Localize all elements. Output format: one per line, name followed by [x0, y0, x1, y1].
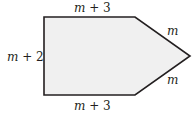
pentagon-diagram: m + 3 m + 2 m m m + 3: [0, 0, 193, 115]
label-top: m + 3: [74, 1, 111, 15]
label-upper-right: m: [167, 24, 178, 38]
label-left: m + 2: [7, 50, 44, 64]
label-lower-right: m: [167, 73, 178, 87]
label-bottom: m + 3: [74, 99, 111, 113]
